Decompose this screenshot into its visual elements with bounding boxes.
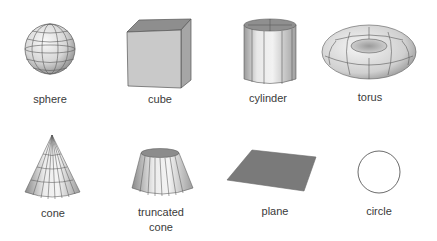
truncated-cone-label-line2: cone <box>116 220 206 234</box>
torus-shape <box>322 25 416 79</box>
plane-shape <box>227 150 316 191</box>
circle-shape <box>358 151 400 193</box>
cone-shape <box>25 135 80 199</box>
cylinder-shape <box>244 19 296 84</box>
torus-label: torus <box>325 90 415 104</box>
circle-label: circle <box>334 204 424 218</box>
truncated-cone-shape <box>132 149 193 197</box>
truncated-cone-label-line1: truncated <box>116 205 206 219</box>
primitive-shapes-figure: sphere cube cylinder torus cone truncate… <box>0 0 437 241</box>
cube-shape <box>127 19 191 88</box>
cone-label: cone <box>8 206 98 220</box>
sphere-label: sphere <box>5 92 95 106</box>
cylinder-label: cylinder <box>223 91 313 105</box>
sphere-shape <box>25 24 75 74</box>
cube-label: cube <box>115 92 205 106</box>
plane-label: plane <box>230 204 320 218</box>
